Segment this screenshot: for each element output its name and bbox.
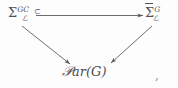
node-sigma-bar-g-script-l: ΣGℒ — [145, 4, 165, 20]
superscript-g: G — [154, 5, 160, 14]
node-sigma-gc-script-l: ΣGCℒ⊂ — [8, 4, 41, 20]
subscript-script-l-left: ℒ — [22, 14, 27, 23]
node-par-of-g: 𝒫ar(G) — [62, 64, 107, 78]
arrow-left-diagonal — [22, 26, 70, 64]
subscript-script-l-right: ℒ — [153, 14, 158, 23]
commutative-diagram-figure: ΣGCℒ⊂ ΣGℒ 𝒫ar(G) , — [0, 0, 178, 88]
sigma-glyph-left: Σ — [8, 6, 17, 19]
inclusion-hook-icon: ⊂ — [34, 7, 41, 16]
arrow-right-diagonal — [111, 26, 152, 63]
par-of-g-rest: ar(G) — [72, 64, 107, 79]
trailing-comma: , — [155, 68, 159, 82]
superscript-gc: GC — [17, 5, 29, 14]
script-p-glyph: 𝒫 — [62, 63, 72, 79]
